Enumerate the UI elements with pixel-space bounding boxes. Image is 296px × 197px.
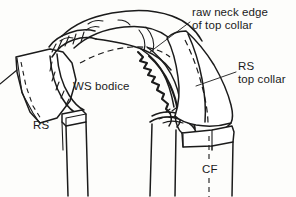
sewing-diagram-figure: .s { fill:none; stroke:#1b1b1b; stroke-w… bbox=[0, 0, 296, 197]
illustration-page: .s { fill:none; stroke:#1b1b1b; stroke-w… bbox=[0, 0, 296, 197]
